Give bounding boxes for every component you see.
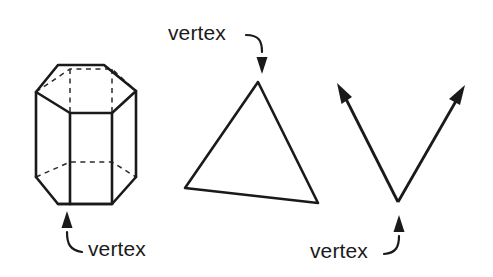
prism-vertex-label: vertex: [88, 237, 146, 260]
angle-vertex-leader: [384, 215, 405, 254]
triangle-shape: [185, 82, 318, 203]
triangle-leader-curve: [246, 35, 262, 52]
angle-rays-shape: [337, 83, 465, 202]
prism-hidden-edges: [36, 69, 136, 177]
triangle-leader-arrowhead: [257, 57, 268, 74]
angle-vertex-label: vertex: [310, 239, 368, 262]
vertex-diagram: vertex vertex vertex: [0, 0, 493, 277]
angle-right-ray-line: [398, 101, 456, 202]
prism-top-face: [36, 65, 136, 113]
angle-right-ray-arrowhead: [449, 85, 465, 105]
prism-visible-edges: [36, 65, 136, 204]
angle-left-ray-line: [346, 99, 398, 202]
prism-bottom-front-edges: [36, 177, 136, 204]
angle-left-ray-arrowhead: [337, 83, 352, 104]
prism-leader-curve: [67, 232, 82, 252]
triangle-vertex-leader: [246, 35, 268, 74]
prism-vertex-leader: [62, 211, 83, 252]
hidden-edge-bottom-back: [36, 162, 136, 177]
triangle-vertex-label: vertex: [168, 21, 226, 44]
angle-leader-arrowhead: [394, 215, 405, 232]
hexagonal-prism: [36, 65, 136, 204]
prism-leader-arrowhead: [62, 211, 73, 228]
figure-canvas: vertex vertex vertex: [0, 0, 493, 277]
triangle-outline: [185, 82, 318, 203]
angle-leader-curve: [384, 236, 399, 254]
